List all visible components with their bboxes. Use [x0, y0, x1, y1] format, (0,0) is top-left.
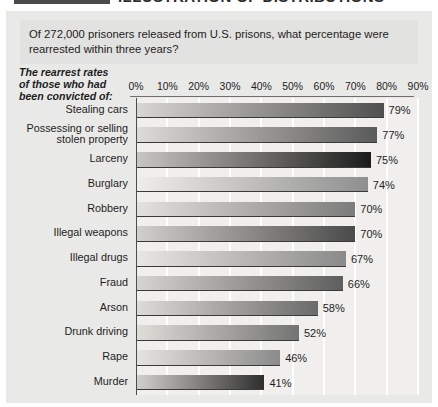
bar-value-label: 70%	[360, 203, 382, 215]
category-label-line: Stealing cars	[6, 104, 128, 116]
bar	[136, 152, 371, 168]
x-tick-0: 0%	[128, 81, 143, 92]
bar	[136, 350, 280, 366]
x-axis-tick-labels: 0%10%20%30%40%50%60%70%80%90%	[130, 81, 426, 95]
x-tick-40: 40%	[251, 81, 272, 92]
category-label: Murder	[6, 376, 132, 388]
header-rule	[14, 0, 110, 4]
x-axis-rule	[130, 96, 414, 97]
category-label: Illegal drugs	[6, 252, 132, 264]
category-label-line: Drunk driving	[6, 326, 128, 338]
category-label: Arson	[6, 302, 132, 314]
header-title: ILLUSTRATION OF DISTRIBUTIONS	[118, 0, 384, 5]
y-axis-line	[136, 98, 137, 395]
bar-value-label: 58%	[323, 302, 345, 314]
x-tick-10: 10%	[157, 81, 178, 92]
bar-value-label: 79%	[389, 104, 411, 116]
x-tick-70: 70%	[345, 81, 366, 92]
bar-row: 41%	[136, 375, 418, 391]
bar	[136, 325, 299, 341]
x-tick-90: 90%	[408, 81, 429, 92]
category-labels: Stealing carsPossessing or sellingstolen…	[6, 98, 132, 395]
bar-value-label: 74%	[373, 178, 395, 190]
category-label: Burglary	[6, 178, 132, 190]
category-label-line: Robbery	[6, 203, 128, 215]
category-label-line: Fraud	[6, 277, 128, 289]
category-label: Stealing cars	[6, 104, 132, 116]
bar	[136, 301, 318, 317]
chart-panel: Of 272,000 prisoners released from U.S. …	[6, 11, 432, 403]
category-label: Rape	[6, 351, 132, 363]
bar-row: 70%	[136, 202, 418, 218]
bar-row: 52%	[136, 325, 418, 341]
category-label: Larceny	[6, 153, 132, 165]
bar	[136, 226, 355, 242]
x-tick-50: 50%	[282, 81, 303, 92]
x-tick-20: 20%	[188, 81, 209, 92]
bar	[136, 202, 355, 218]
bar-value-label: 75%	[376, 154, 398, 166]
category-label-line: Illegal drugs	[6, 252, 128, 264]
bar-value-label: 70%	[360, 228, 382, 240]
category-label-line: Arson	[6, 302, 128, 314]
bar	[136, 103, 384, 119]
category-label-line: stolen property	[6, 134, 128, 146]
x-tick-60: 60%	[314, 81, 335, 92]
bar-row: 75%	[136, 152, 418, 168]
bar	[136, 251, 346, 267]
bar-row: 74%	[136, 177, 418, 193]
bar	[136, 127, 377, 143]
x-tick-80: 80%	[376, 81, 397, 92]
bar-value-label: 67%	[351, 253, 373, 265]
bar	[136, 375, 264, 391]
bar-chart: 0%10%20%30%40%50%60%70%80%90% 79%77%75%7…	[6, 11, 432, 403]
bar-value-label: 66%	[348, 277, 370, 289]
bar-row: 67%	[136, 251, 418, 267]
bar-row: 79%	[136, 103, 418, 119]
category-label-line: Murder	[6, 376, 128, 388]
bar-row: 46%	[136, 350, 418, 366]
category-label-line: Larceny	[6, 153, 128, 165]
bar-row: 70%	[136, 226, 418, 242]
category-label: Illegal weapons	[6, 227, 132, 239]
category-label: Robbery	[6, 203, 132, 215]
bar-value-label: 77%	[382, 129, 404, 141]
category-label-line: Illegal weapons	[6, 227, 128, 239]
category-label: Drunk driving	[6, 326, 132, 338]
category-label: Fraud	[6, 277, 132, 289]
plot-area: 79%77%75%74%70%70%67%66%58%52%46%41%	[136, 98, 418, 395]
category-label-line: Rape	[6, 351, 128, 363]
bar-value-label: 41%	[269, 376, 291, 388]
bar-row: 58%	[136, 301, 418, 317]
bar	[136, 177, 368, 193]
section-header: ILLUSTRATION OF DISTRIBUTIONS	[0, 0, 438, 9]
bar-rows: 79%77%75%74%70%70%67%66%58%52%46%41%	[136, 98, 418, 395]
category-label: Possessing or sellingstolen property	[6, 123, 132, 146]
bar-value-label: 52%	[304, 327, 326, 339]
bar-row: 77%	[136, 127, 418, 143]
category-label-line: Burglary	[6, 178, 128, 190]
bar-value-label: 46%	[285, 352, 307, 364]
x-tick-30: 30%	[220, 81, 241, 92]
bar	[136, 276, 343, 292]
bar-row: 66%	[136, 276, 418, 292]
